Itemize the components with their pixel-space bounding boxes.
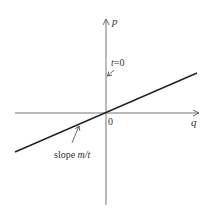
p-axis-label: p	[111, 15, 118, 27]
slope-word: slope	[54, 149, 78, 160]
phase-diagram: p q 0 t=0 slope m/t	[0, 0, 207, 217]
t-zero-arrow	[108, 70, 115, 76]
slope-arrow	[72, 126, 79, 143]
t-zero-annotation: t=0	[108, 57, 125, 76]
svg-text:t=0: t=0	[111, 57, 124, 68]
origin-label: 0	[108, 116, 113, 127]
svg-text:slope m/t: slope m/t	[54, 149, 91, 160]
q-axis-label: q	[191, 116, 197, 128]
slope-value: m/t	[78, 149, 91, 160]
slope-annotation: slope m/t	[54, 126, 91, 160]
t-equals-zero: =0	[114, 57, 125, 68]
